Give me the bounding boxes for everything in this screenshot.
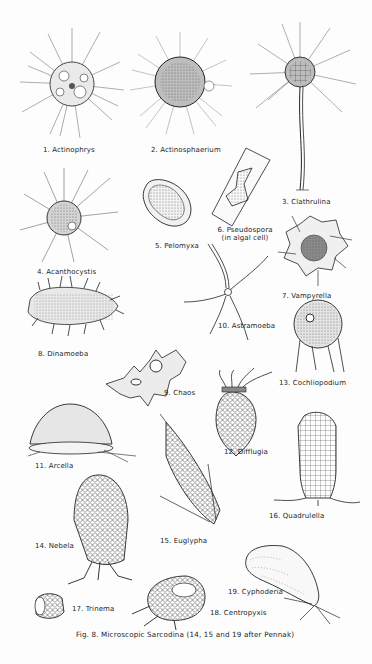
vampyrella-drawing	[278, 216, 352, 286]
label-pseudospora-note: (in algal cell)	[210, 234, 280, 242]
cochliopodium-drawing	[294, 300, 344, 372]
label-nebela: 14. Nebela	[35, 542, 74, 550]
label-quadrulella: 16. Quadrulella	[269, 512, 324, 520]
centropyxis-drawing	[132, 576, 205, 630]
label-pseudospora-name: 6. Pseudospora	[210, 226, 280, 234]
chaos-drawing	[106, 350, 186, 406]
label-trinema: 17. Trinema	[72, 605, 114, 613]
label-cyphoderia: 19. Cyphoderia	[228, 588, 283, 596]
actinophrys-drawing	[20, 28, 124, 138]
label-vampyrella: 7. Vampyrella	[282, 292, 331, 300]
label-cochliopodium: 13. Cochliopodium	[279, 379, 346, 387]
acanthocystis-drawing	[20, 168, 118, 262]
difflugia-drawing	[216, 368, 272, 456]
figure-caption: Fig. 8. Microscopic Sarcodina (14, 15 an…	[76, 630, 294, 639]
dinamoeba-drawing	[28, 276, 124, 336]
actinosphaerium-drawing	[130, 32, 232, 134]
pseudospora-drawing	[212, 148, 270, 226]
label-difflugia: 12. Difflugia	[224, 448, 268, 456]
quadrulella-drawing	[274, 412, 360, 506]
pelomyxa-drawing	[143, 180, 191, 226]
arcella-drawing	[28, 404, 136, 462]
label-pseudospora: 6. Pseudospora (in algal cell)	[210, 226, 280, 242]
label-actinophrys: 1. Actinophrys	[43, 146, 95, 154]
label-euglypha: 15. Euglypha	[160, 537, 207, 545]
label-pelomyxa: 5. Pelomyxa	[155, 242, 199, 250]
label-acanthocystis: 4. Acanthocystis	[37, 268, 96, 276]
illustrations	[0, 0, 372, 664]
euglypha-drawing	[160, 414, 220, 524]
label-chaos: 9. Chaos	[164, 389, 195, 397]
label-clathrulina: 3. Clathrulina	[282, 198, 331, 206]
label-dinamoeba: 8. Dinamoeba	[38, 350, 88, 358]
nebela-drawing	[68, 475, 132, 584]
figure-page: 1. Actinophrys 2. Actinosphaerium 3. Cla…	[0, 0, 372, 664]
trinema-drawing	[35, 594, 64, 619]
label-astramoeba: 10. Astramoeba	[218, 322, 275, 330]
label-centropyxis: 18. Centropyxis	[210, 609, 267, 617]
label-actinosphaerium: 2. Actinosphaerium	[151, 146, 221, 154]
label-arcella: 11. Arcella	[35, 462, 73, 470]
